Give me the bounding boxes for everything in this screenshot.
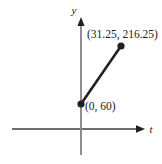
y-axis-arrowhead-icon [77, 17, 84, 26]
x-axis [12, 125, 145, 133]
y-axis-label: y [71, 4, 77, 16]
x-axis-arrowhead-icon [136, 125, 145, 133]
y-axis [77, 17, 84, 155]
data-point-marker-lower [77, 100, 84, 107]
x-axis-label: t [149, 123, 153, 135]
graph-figure: y t (31.25, 216.25) (0, 60) [0, 0, 162, 164]
coordinate-plot: y t (31.25, 216.25) (0, 60) [0, 0, 162, 164]
annotation-upper-point: (31.25, 216.25) [87, 28, 158, 41]
data-line-segment [81, 46, 121, 104]
data-point-marker-upper [117, 42, 124, 49]
annotation-lower-point: (0, 60) [85, 100, 116, 113]
